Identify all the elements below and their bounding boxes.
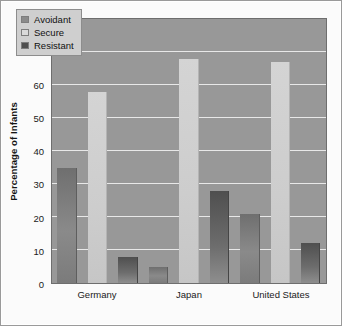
x-axis-tick-label-japan: Japan [143,289,235,300]
bar-japan-resistant[interactable] [210,191,229,283]
legend-item-label: Resistant [34,40,74,51]
y-axis-tick-labels: 01020304050607080 [21,18,47,284]
bar-germany-secure[interactable] [88,92,107,283]
y-axis-tick-label: 60 [33,79,44,90]
legend-item-label: Avoidant [34,14,71,25]
legend-swatch-icon [21,16,29,23]
bar-groups [52,19,326,283]
bar-slot [52,19,82,283]
bar-slot [235,19,265,283]
bar-slot [265,19,295,283]
bar-japan-secure[interactable] [179,59,198,283]
bar-japan-avoidant[interactable] [149,267,168,284]
bar-united-states-avoidant[interactable] [240,214,259,283]
x-axis-tick-labels: GermanyJapanUnited States [51,289,327,300]
legend-item-label: Secure [34,27,64,38]
bar-chart-figure: Percentage of Infants 01020304050607080 … [0,0,342,326]
bar-group-united-states [235,19,326,283]
legend-item-avoidant[interactable]: Avoidant [21,13,74,26]
y-axis-tick-label: 0 [39,279,44,290]
plot-area [51,18,327,284]
bar-slot [113,19,143,283]
chart-legend: AvoidantSecureResistant [16,9,82,56]
bar-group-germany [52,19,143,283]
y-axis-title-text: Percentage of Infants [8,102,19,201]
bar-slot [174,19,204,283]
legend-swatch-icon [21,29,29,36]
bar-slot [296,19,326,283]
y-axis-tick-label: 20 [33,212,44,223]
bar-germany-avoidant[interactable] [57,168,76,284]
bar-group-japan [143,19,234,283]
y-axis-tick-label: 30 [33,179,44,190]
y-axis-tick-label: 50 [33,112,44,123]
bar-slot [204,19,234,283]
legend-item-secure[interactable]: Secure [21,26,74,39]
x-axis-tick-label-germany: Germany [51,289,143,300]
bar-united-states-secure[interactable] [271,62,290,283]
bar-germany-resistant[interactable] [118,257,137,283]
bar-united-states-resistant[interactable] [301,243,320,283]
legend-item-resistant[interactable]: Resistant [21,39,74,52]
bar-slot [143,19,173,283]
legend-swatch-icon [21,42,29,49]
bar-slot [82,19,112,283]
y-axis-tick-label: 10 [33,245,44,256]
y-axis-tick-label: 40 [33,146,44,157]
x-axis-tick-label-united-states: United States [235,289,327,300]
